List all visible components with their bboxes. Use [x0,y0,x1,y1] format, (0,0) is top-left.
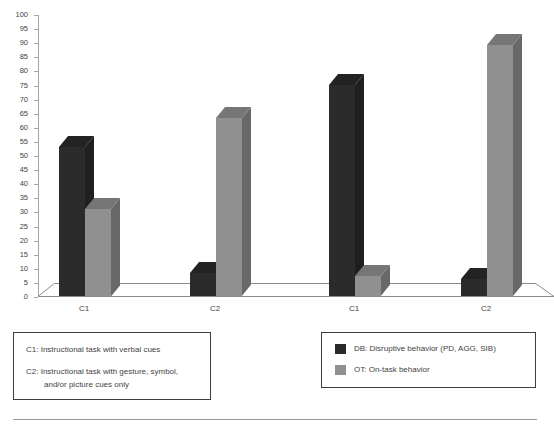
note-line-c1: C1: Instructional task with verbal cues [26,345,160,355]
y-tick-mark [34,57,38,58]
bar-front-face [461,279,487,296]
y-tick-mark [34,128,38,129]
y-tick-mark [34,241,38,242]
bar-top-face [487,34,522,45]
bar-top-face [355,265,390,276]
x-tick-label-2: C1 [349,304,359,313]
x-tick-label-3: C2 [481,304,491,313]
bar-db-c1-0 [59,147,85,296]
y-tick-mark [34,184,38,185]
y-tick-mark [34,170,38,171]
bar-top-face [85,198,120,209]
bar-side-face [513,34,522,296]
bar-db-c2-3 [461,279,487,296]
y-tick-mark [34,100,38,101]
bar-ot-c1-0 [85,209,111,296]
bar-side-face [111,198,120,296]
bottom-horizontal-rule [13,419,537,420]
note-line-c2a: C2: Instructional task with gesture, sym… [26,367,178,377]
y-tick-mark [34,15,38,16]
note-line-c2b: and/or picture cues only [44,380,129,390]
bar-top-face [59,136,94,147]
y-tick-mark [34,198,38,199]
x-axis-tick-labels: C1C2C1C2 [0,300,552,320]
legend-box: DB: Disruptive behavior (PD, AGG, SIB) O… [321,332,536,388]
y-tick-mark [34,283,38,284]
category-notes-box: C1: Instructional task with verbal cues … [13,332,211,400]
x-tick-label-1: C2 [210,304,220,313]
y-tick-mark [34,71,38,72]
bar-front-face [59,147,85,296]
bar-front-face [329,85,355,297]
bar-top-face [329,74,364,85]
y-tick-mark [34,142,38,143]
y-tick-mark [34,86,38,87]
bar-front-face [190,273,216,296]
y-tick-mark [34,269,38,270]
bar-front-face [216,118,242,296]
bar-side-face [355,74,364,297]
bar-ot-c2-1 [216,118,242,296]
bar-series-container [0,0,552,300]
y-tick-mark [34,212,38,213]
legend-swatch-ot [335,365,346,375]
plot-area: 1009590858075706560555045403530252015105… [0,0,552,300]
bar-top-face [216,107,251,118]
y-tick-mark [34,43,38,44]
y-tick-mark [34,29,38,30]
legend-swatch-db [335,344,346,354]
legend-label-db: DB: Disruptive behavior (PD, AGG, SIB) [354,343,496,354]
y-tick-mark [34,227,38,228]
y-tick-mark [34,114,38,115]
bar-db-c2-1 [190,273,216,296]
y-tick-mark [34,255,38,256]
bar-front-face [85,209,111,296]
y-tick-mark [34,156,38,157]
bar-ot-c1-2 [355,276,381,296]
bar-side-face [242,107,251,296]
bar-db-c1-2 [329,85,355,297]
bar-ot-c2-3 [487,45,513,296]
legend-label-ot: OT: On-task behavior [354,364,430,375]
bar-front-face [487,45,513,296]
bar-front-face [355,276,381,296]
y-tick-mark [34,297,38,298]
x-tick-label-0: C1 [79,304,89,313]
